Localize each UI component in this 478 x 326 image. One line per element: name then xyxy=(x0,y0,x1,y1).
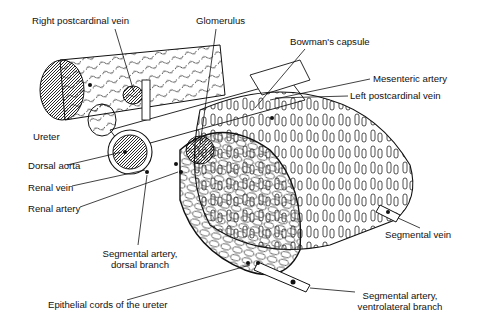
label-left-postcardinal-vein: Left postcardinal vein xyxy=(350,90,441,101)
label-mesenteric-artery: Mesenteric artery xyxy=(373,73,447,84)
label-segmental-artery-dorsal-line2: dorsal branch xyxy=(95,259,185,270)
label-segmental-artery-dorsal-line1: Segmental artery, xyxy=(95,248,185,259)
label-segmental-artery-dorsal: Segmental artery, dorsal branch xyxy=(95,248,185,270)
label-segmental-artery-ventro-line2: ventrolateral branch xyxy=(350,301,450,312)
label-glomerulus: Glomerulus xyxy=(196,15,245,26)
label-dorsal-aorta: Dorsal aorta xyxy=(28,160,80,171)
label-segmental-artery-ventrolateral: Segmental artery, ventrolateral branch xyxy=(350,290,450,312)
label-segmental-vein: Segmental vein xyxy=(385,229,451,240)
ureter-cross-section xyxy=(88,104,116,136)
label-ureter: Ureter xyxy=(33,131,60,142)
label-segmental-artery-ventro-line1: Segmental artery, xyxy=(350,290,450,301)
anatomical-figure: Right postcardinal vein Glomerulus Bowma… xyxy=(0,0,478,326)
dorsal-aorta-shape xyxy=(108,130,152,174)
label-right-postcardinal-vein: Right postcardinal vein xyxy=(32,15,129,26)
kidney-body xyxy=(180,92,413,275)
label-epithelial-cords: Epithelial cords of the ureter xyxy=(48,299,167,310)
label-bowmans-capsule: Bowman's capsule xyxy=(290,36,370,47)
label-renal-artery: Renal artery xyxy=(28,203,80,214)
glomerulus-shape xyxy=(186,136,214,164)
label-renal-vein: Renal vein xyxy=(28,182,73,193)
